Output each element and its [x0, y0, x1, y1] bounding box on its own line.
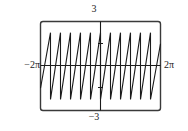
x-min-label: −2π [4, 60, 40, 70]
y-max-label: 3 [0, 4, 188, 14]
x-max-label: 2π [164, 60, 188, 70]
graph-screenshot: 3 −3 −2π 2π [0, 0, 188, 131]
y-min-label: −3 [0, 112, 188, 122]
